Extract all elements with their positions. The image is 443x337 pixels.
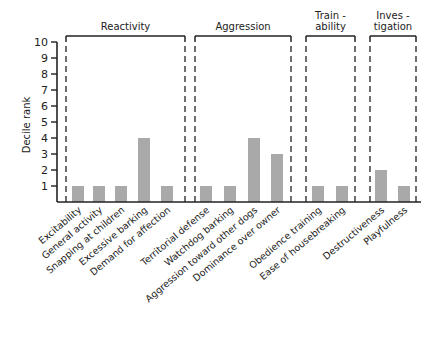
bar (138, 138, 150, 202)
y-tick-label: 5 (41, 116, 48, 129)
group-label: tigation (374, 21, 412, 32)
bar (312, 186, 324, 202)
bar (93, 186, 105, 202)
group-label: Reactivity (101, 21, 151, 32)
bar (115, 186, 127, 202)
bar (200, 186, 212, 202)
y-tick-label: 3 (41, 148, 48, 161)
y-tick-label: 4 (41, 132, 48, 145)
group-label: Train - (314, 10, 346, 21)
bar (271, 154, 283, 202)
y-axis: 12345678910 (34, 36, 57, 202)
y-axis-title: Decile rank (21, 96, 32, 153)
group-label: ability (315, 21, 346, 32)
bar (248, 138, 260, 202)
group-brackets (66, 36, 416, 202)
y-tick-label: 9 (41, 52, 48, 65)
bar-chart: ReactivityAggressionTrain -abilityInves … (0, 0, 443, 337)
y-tick-label: 10 (34, 36, 48, 49)
bar (398, 186, 410, 202)
bars (72, 138, 410, 202)
y-tick-label: 2 (41, 164, 48, 177)
y-tick-label: 7 (41, 84, 48, 97)
group-label: Aggression (215, 21, 270, 32)
group-label: Inves - (376, 10, 410, 21)
bar (336, 186, 348, 202)
bar (72, 186, 84, 202)
category-labels: ExcitabilityGeneral activitySnapping at … (36, 204, 409, 304)
bar (161, 186, 173, 202)
bar (375, 170, 387, 202)
bar (224, 186, 236, 202)
y-tick-label: 1 (41, 180, 48, 193)
y-tick-label: 8 (41, 68, 48, 81)
y-tick-label: 6 (41, 100, 48, 113)
group-labels: ReactivityAggressionTrain -abilityInves … (101, 10, 412, 32)
